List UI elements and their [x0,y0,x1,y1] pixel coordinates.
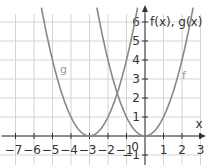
x-axis-label: x [195,117,202,131]
x-tick-label: −3 [79,143,97,157]
curve-label-f: f [182,69,187,82]
y-tick-label: 4 [132,53,140,67]
x-tick-label: −5 [42,143,60,157]
y-tick-label: 1 [132,110,140,124]
y-tick-label: 2 [132,91,140,105]
x-tick-label: −6 [23,143,41,157]
origin-label: 0 [131,140,139,154]
x-tick-label: −2 [97,143,115,157]
x-tick-label: 3 [197,143,205,157]
x-tick-label: −7 [5,143,23,157]
y-tick-label: 5 [132,34,140,48]
y-axis-label: f(x), g(x) [150,15,202,29]
x-tick-label: −4 [60,143,78,157]
y-tick-label: 3 [132,72,140,86]
function-plot: −7−6−5−4−3−2−1123654321−10 f(x), g(x)xgf [0,0,208,165]
y-axis-arrow-icon [142,5,148,12]
labels: f(x), g(x)xgf [60,15,202,131]
curve-label-g: g [60,63,67,76]
x-tick-label: 2 [178,143,186,157]
x-tick-label: 1 [160,143,168,157]
